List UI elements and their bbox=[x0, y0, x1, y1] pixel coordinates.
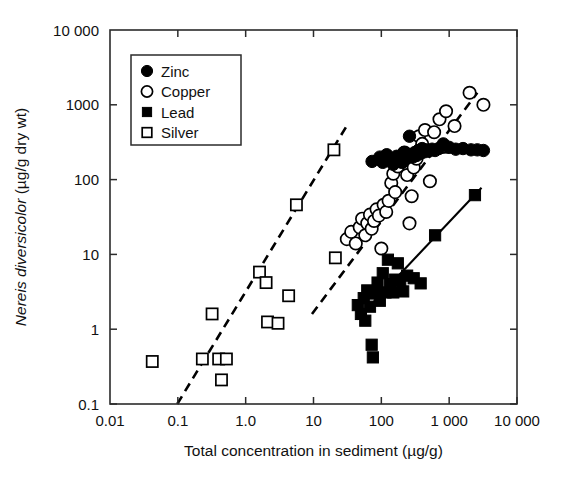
point-lead bbox=[415, 278, 426, 289]
point-zinc bbox=[403, 130, 415, 142]
x-tick-label: 1.0 bbox=[235, 412, 256, 429]
point-zinc bbox=[477, 144, 489, 156]
x-tick-label: 10 000 bbox=[494, 412, 540, 429]
y-tick-label: 100 bbox=[74, 171, 99, 188]
legend-marker-lead bbox=[142, 107, 151, 116]
y-tick-label: 0.1 bbox=[78, 396, 99, 413]
point-copper bbox=[463, 87, 475, 99]
series-silver bbox=[147, 144, 341, 385]
y-tick-label: 1000 bbox=[66, 96, 99, 113]
point-copper bbox=[448, 120, 460, 132]
legend: ZincCopperLeadSilver bbox=[131, 55, 241, 145]
y-axis-title: Nereis diversicolor (µg/g dry wt) bbox=[12, 108, 29, 326]
y-axis-title-species: Nereis diversicolor bbox=[12, 198, 29, 326]
legend-label-lead: Lead bbox=[161, 104, 194, 121]
legend-marker-silver bbox=[142, 128, 152, 138]
scatter-plot: 0.010.11.0101001 00010 00010 00010001001… bbox=[0, 0, 570, 498]
point-silver bbox=[197, 353, 208, 364]
x-tick-label: 0.01 bbox=[95, 412, 124, 429]
x-tick-label: 100 bbox=[369, 412, 394, 429]
point-silver bbox=[283, 290, 294, 301]
point-lead bbox=[377, 268, 388, 279]
point-silver bbox=[328, 144, 339, 155]
legend-label-zinc: Zinc bbox=[161, 63, 190, 80]
y-tick-label: 1 bbox=[91, 321, 99, 338]
point-silver bbox=[216, 374, 227, 385]
point-silver bbox=[254, 266, 265, 277]
point-copper bbox=[424, 175, 436, 187]
point-copper bbox=[405, 190, 417, 202]
point-silver bbox=[262, 316, 273, 327]
point-silver bbox=[291, 199, 302, 210]
legend-marker-copper bbox=[141, 86, 152, 97]
point-lead bbox=[366, 339, 377, 350]
point-lead bbox=[360, 315, 371, 326]
point-copper bbox=[403, 217, 415, 229]
point-copper bbox=[428, 126, 440, 138]
point-copper bbox=[389, 186, 401, 198]
legend-label-copper: Copper bbox=[161, 83, 210, 100]
point-silver bbox=[206, 308, 217, 319]
point-copper bbox=[440, 105, 452, 117]
point-silver bbox=[272, 318, 283, 329]
point-silver bbox=[330, 252, 341, 263]
y-tick-label: 10 000 bbox=[53, 22, 99, 39]
point-silver bbox=[221, 353, 232, 364]
point-lead bbox=[398, 286, 409, 297]
legend-label-silver: Silver bbox=[161, 124, 199, 141]
series-copper bbox=[341, 87, 490, 255]
point-silver bbox=[260, 277, 271, 288]
point-silver bbox=[147, 356, 158, 367]
x-tick-label: 1 000 bbox=[430, 412, 468, 429]
point-lead bbox=[392, 258, 403, 269]
y-tick-label: 10 bbox=[82, 246, 99, 263]
x-tick-label: 0.1 bbox=[167, 412, 188, 429]
x-tick-label: 10 bbox=[305, 412, 322, 429]
figure-container: 0.010.11.0101001 00010 00010 00010001001… bbox=[0, 0, 570, 498]
legend-marker-zinc bbox=[141, 65, 152, 76]
tick-labels-layer: 0.010.11.0101001 00010 00010 00010001001… bbox=[53, 22, 540, 430]
y-axis-title-units: (µg/g dry wt) bbox=[12, 108, 29, 199]
x-axis-title: Total concentration in sediment (µg/g) bbox=[184, 442, 443, 459]
point-copper bbox=[375, 242, 387, 254]
point-lead bbox=[469, 190, 480, 201]
point-lead bbox=[429, 230, 440, 241]
point-copper bbox=[477, 99, 489, 111]
point-lead bbox=[367, 352, 378, 363]
